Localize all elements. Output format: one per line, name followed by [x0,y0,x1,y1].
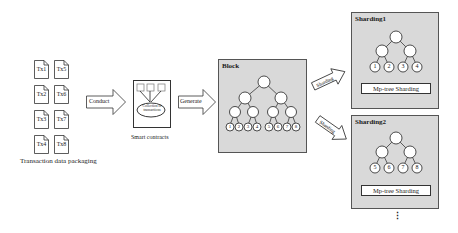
tx-document: Tx3 [34,110,49,129]
tx-document: Tx8 [54,135,69,154]
continuation-ellipsis: ⋮ [393,211,402,221]
sharding1-panel: Sharding1 1 2 3 4 Mp-tree Sharding [351,12,439,109]
tx-document: Tx4 [34,135,49,154]
diagonal-arrow-icon: Sharding [309,65,349,93]
tx-document: Tx5 [54,60,69,79]
conduct-arrow: Conduct [86,89,126,115]
diagonal-arrow-icon: Sharding [312,114,352,144]
tx-document: Tx2 [34,85,49,104]
sharding1-tree [352,13,440,110]
tx-document: Tx6 [54,85,69,104]
mp-tree-sharding-label: Mp-tree Sharding [361,185,431,196]
sharding2-panel: Sharding2 5 6 7 8 Mp-tree Sharding [351,115,439,209]
generate-arrow: Generate [178,89,216,115]
sharding-arrow-up: Sharding Sharding [309,65,349,93]
smart-contract-caption: Smart contracts [131,134,169,140]
collection-label: Collection of transactions [139,104,165,112]
merkle-tree-diagram [219,60,308,154]
block-panel: Block 1 2 3 4 5 6 7 8 [218,59,307,153]
tx-document: Tx7 [54,110,69,129]
smart-contract-box: Collection of transactions [133,80,171,128]
sharding-arrow-down: Sharding Sharding [312,114,352,144]
transaction-caption: Transaction data packaging [20,157,97,165]
mp-tree-sharding-label: Mp-tree Sharding [361,83,431,94]
tx-document: Tx1 [34,60,49,79]
